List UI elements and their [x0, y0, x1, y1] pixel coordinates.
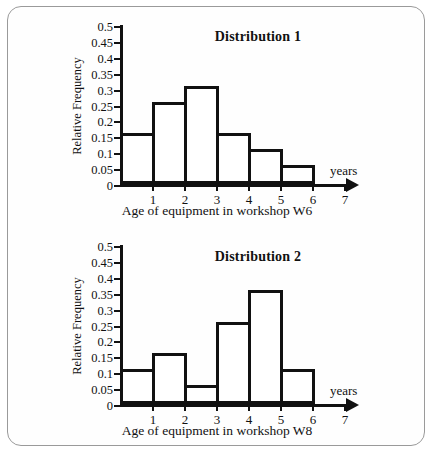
bar	[280, 165, 315, 184]
y-tick-label-0.4: 0.4	[97, 53, 113, 66]
y-tick-label-0.05: 0.05	[91, 164, 113, 177]
x-tick-4	[248, 404, 250, 411]
y-tick-label-0.25: 0.25	[91, 320, 113, 333]
x-tick-7	[344, 404, 346, 411]
x-axis-caption-2: Age of equipment in workshop W8	[8, 423, 426, 439]
bar	[248, 290, 283, 404]
y-tick-0.45	[114, 42, 121, 44]
x-tick-3	[216, 404, 218, 411]
bar	[152, 102, 187, 185]
x-tick-5	[280, 404, 282, 411]
y-tick-label-0.15: 0.15	[91, 352, 113, 365]
x-tick-2	[184, 404, 186, 411]
y-tick-label-0.35: 0.35	[91, 68, 113, 81]
bar	[216, 133, 251, 184]
y-axis-title-1: Relative Frequency	[70, 57, 85, 155]
bar	[184, 385, 219, 404]
bar	[248, 149, 283, 184]
x-axis-caption-1: Age of equipment in workshop W6	[8, 203, 426, 219]
y-tick-label-0.1: 0.1	[97, 368, 113, 381]
x-tick-4	[248, 184, 250, 191]
y-tick-0	[114, 185, 121, 187]
y-tick-label-0.5: 0.5	[97, 21, 113, 34]
y-tick-0.25	[114, 326, 121, 328]
plot-area-2: 00.050.10.150.20.250.30.350.40.450.51234…	[120, 245, 352, 407]
bar	[280, 369, 315, 404]
y-tick-label-0.3: 0.3	[97, 84, 113, 97]
y-tick-label-0.2: 0.2	[97, 336, 113, 349]
x-axis-arrow-icon-2	[346, 398, 359, 412]
x-tick-1	[152, 184, 154, 191]
bar	[152, 353, 187, 404]
x-tick-1	[152, 404, 154, 411]
x-tick-6	[312, 404, 314, 411]
y-tick-0.3	[114, 310, 121, 312]
chart-panel-distribution-1: Distribution 1 Relative Frequency 00.050…	[8, 7, 426, 227]
y-tick-label-0.25: 0.25	[91, 100, 113, 113]
x-tick-3	[216, 184, 218, 191]
y-tick-0.4	[114, 58, 121, 60]
bar	[216, 322, 251, 405]
y-tick-label-0.05: 0.05	[91, 384, 113, 397]
x-axis-arrow-icon-1	[346, 178, 359, 192]
bar	[184, 86, 219, 184]
y-tick-label-0.2: 0.2	[97, 116, 113, 129]
y-tick-0.2	[114, 341, 121, 343]
y-tick-0.5	[114, 246, 121, 248]
y-tick-0.5	[114, 26, 121, 28]
y-tick-label-0: 0	[107, 180, 113, 193]
y-tick-0.25	[114, 106, 121, 108]
x-tick-5	[280, 184, 282, 191]
y-tick-label-0.3: 0.3	[97, 304, 113, 317]
y-tick-label-0.45: 0.45	[91, 37, 113, 50]
x-tick-2	[184, 184, 186, 191]
x-axis-unit-label-1: years	[330, 163, 357, 179]
y-tick-0.35	[114, 74, 121, 76]
y-tick-0.4	[114, 278, 121, 280]
y-axis-title-2: Relative Frequency	[70, 277, 85, 375]
y-tick-0.45	[114, 262, 121, 264]
y-tick-label-0.1: 0.1	[97, 148, 113, 161]
figure-frame: Distribution 1 Relative Frequency 00.050…	[7, 6, 425, 446]
y-tick-0.15	[114, 357, 121, 359]
plot-area-1: 00.050.10.150.20.250.30.350.40.450.51234…	[120, 25, 352, 187]
y-tick-label-0.45: 0.45	[91, 257, 113, 270]
y-tick-0	[114, 405, 121, 407]
y-tick-label-0.4: 0.4	[97, 273, 113, 286]
bar	[120, 133, 155, 184]
x-tick-7	[344, 184, 346, 191]
y-tick-0.2	[114, 121, 121, 123]
y-tick-label-0.35: 0.35	[91, 288, 113, 301]
chart-panel-distribution-2: Distribution 2 Relative Frequency 00.050…	[8, 227, 426, 447]
y-tick-label-0.5: 0.5	[97, 241, 113, 254]
bar	[120, 369, 155, 404]
y-tick-0.35	[114, 294, 121, 296]
y-tick-label-0.15: 0.15	[91, 132, 113, 145]
x-axis-unit-label-2: years	[330, 383, 357, 399]
y-tick-0.3	[114, 90, 121, 92]
x-tick-6	[312, 184, 314, 191]
y-tick-label-0: 0	[107, 400, 113, 413]
